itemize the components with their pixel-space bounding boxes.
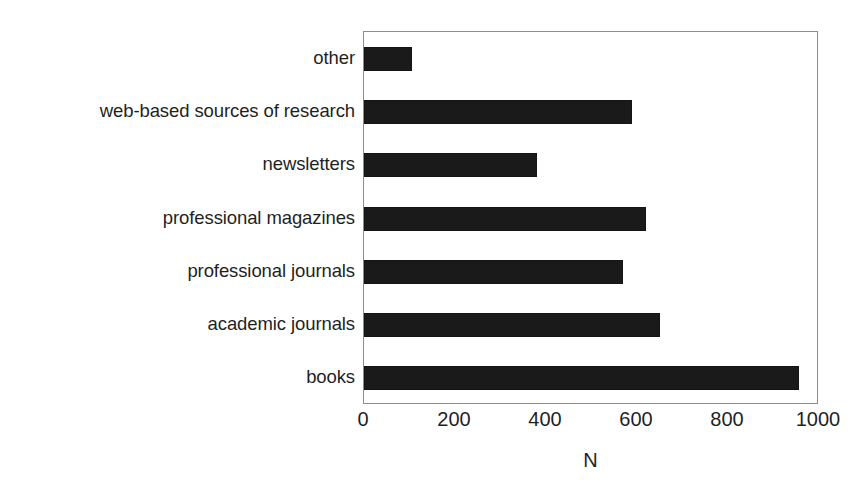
bar-books bbox=[364, 366, 799, 390]
x-tick-400: 400 bbox=[528, 409, 561, 429]
bar-other bbox=[364, 47, 412, 71]
x-axis-title: N bbox=[363, 450, 818, 470]
x-tick-800: 800 bbox=[710, 409, 743, 429]
x-tick-600: 600 bbox=[619, 409, 652, 429]
category-label-books: books bbox=[0, 368, 355, 387]
category-axis-labels: other web-based sources of research news… bbox=[0, 31, 355, 404]
category-label-newsletters: newsletters bbox=[0, 155, 355, 174]
category-label-professional-magazines: professional magazines bbox=[0, 209, 355, 228]
category-label-professional-journals: professional journals bbox=[0, 262, 355, 281]
bar-professional-magazines bbox=[364, 207, 646, 231]
plot-area-frame bbox=[363, 31, 818, 404]
category-label-web-based-sources-of-research: web-based sources of research bbox=[0, 102, 355, 121]
x-axis-tick-labels: 0 200 400 600 800 1000 bbox=[363, 409, 818, 439]
bar-web-based-sources-of-research bbox=[364, 100, 632, 124]
category-label-other: other bbox=[0, 49, 355, 68]
bar-professional-journals bbox=[364, 260, 623, 284]
category-label-academic-journals: academic journals bbox=[0, 315, 355, 334]
bar-newsletters bbox=[364, 153, 537, 177]
x-tick-1000: 1000 bbox=[796, 409, 841, 429]
bars-container bbox=[364, 32, 817, 403]
x-tick-0: 0 bbox=[357, 409, 368, 429]
x-tick-200: 200 bbox=[437, 409, 470, 429]
bar-academic-journals bbox=[364, 313, 660, 337]
bar-chart-figure: other web-based sources of research news… bbox=[0, 0, 867, 495]
